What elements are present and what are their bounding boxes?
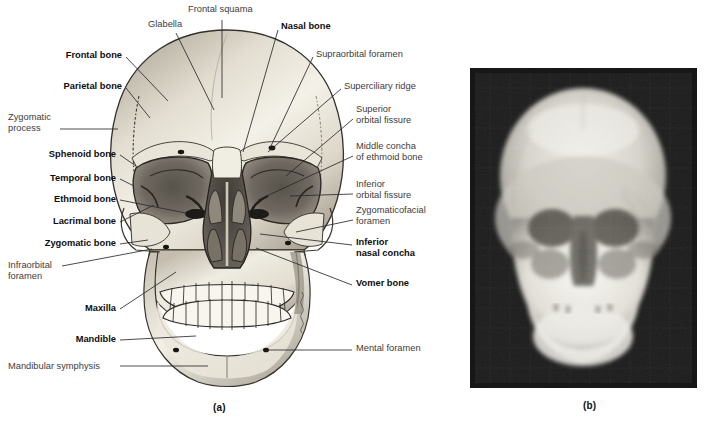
label-zygomatic-process: Zygomatic process [8, 112, 51, 134]
mental-foramen-right [263, 348, 269, 353]
label-temporal-bone: Temporal bone [50, 173, 116, 184]
label-mental-foramen: Mental foramen [356, 343, 421, 354]
supraorbital-foramen-right [269, 146, 276, 151]
label-ethmoid-bone: Ethmoid bone [54, 194, 116, 205]
panel-b-radiograph: (b) [455, 0, 713, 430]
label-vomer-bone: Vomer bone [356, 278, 409, 289]
label-frontal-bone: Frontal bone [66, 50, 122, 61]
label-zygomaticofacial-foramen: Zygomaticofacial foramen [356, 205, 426, 227]
label-mandibular-symphysis: Mandibular symphysis [8, 361, 100, 372]
label-infraorbital-foramen: Infraorbital foramen [8, 260, 52, 282]
label-mandible: Mandible [76, 334, 116, 345]
label-middle-concha: Middle concha of ethmoid bone [356, 141, 423, 163]
mental-foramen-left [173, 348, 179, 353]
label-lacrimal-bone: Lacrimal bone [53, 216, 116, 227]
label-maxilla: Maxilla [85, 303, 116, 314]
panel-b-caption: (b) [583, 400, 596, 411]
label-sphenoid-bone: Sphenoid bone [49, 149, 116, 160]
label-inferior-orbital-fissure: Inferior orbital fissure [356, 179, 411, 201]
radiograph-image [470, 68, 697, 388]
label-parietal-bone: Parietal bone [64, 81, 122, 92]
panel-a-caption: (a) [213, 402, 226, 413]
label-nasal-bone: Nasal bone [281, 21, 331, 32]
figure-root: Glabella Frontal squama Frontal bone Par… [0, 0, 713, 430]
label-superior-orbital-fissure: Superior orbital fissure [356, 104, 411, 126]
label-frontal-squama: Frontal squama [188, 4, 253, 15]
label-inferior-nasal-concha: Inferior nasal concha [356, 237, 415, 259]
label-superciliary-ridge: Superciliary ridge [344, 81, 416, 92]
label-supraorbital-foramen: Supraorbital foramen [316, 49, 403, 60]
label-zygomatic-bone: Zygomatic bone [45, 238, 116, 249]
supraorbital-foramen-left [178, 150, 184, 154]
label-glabella: Glabella [148, 19, 182, 30]
panel-a-illustration: Glabella Frontal squama Frontal bone Par… [0, 0, 455, 430]
